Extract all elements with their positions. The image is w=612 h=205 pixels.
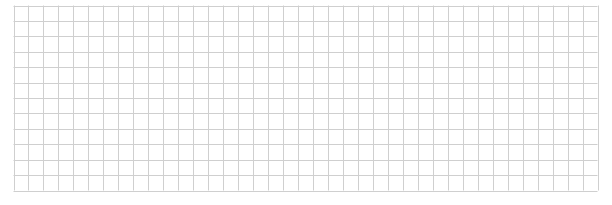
graph-paper-grid bbox=[0, 0, 612, 205]
